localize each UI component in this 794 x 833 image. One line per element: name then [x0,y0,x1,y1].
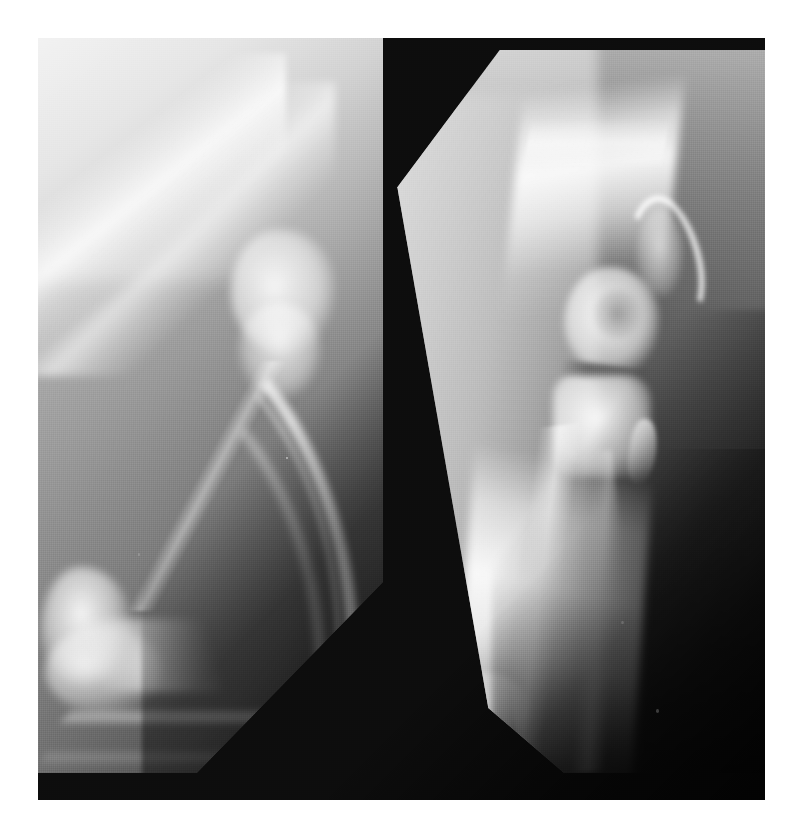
plate-corner-shadow [329,449,765,800]
radiograph-figure-plate [38,38,765,800]
figure-page [0,0,794,833]
right-olecranon-body [636,209,681,296]
scan-dust-speck [656,709,659,713]
scan-dust-speck [138,553,140,556]
